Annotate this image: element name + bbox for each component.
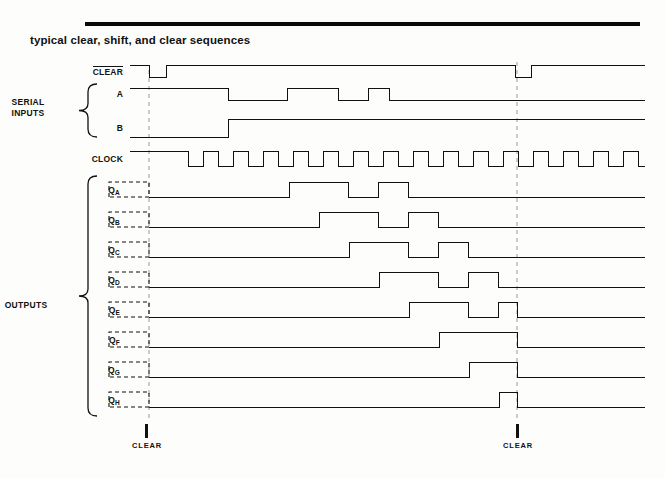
output-qd-waveform xyxy=(109,272,645,287)
clear-input-waveform xyxy=(130,65,645,77)
serial-a-trace xyxy=(130,88,645,100)
clear-marker-1-tick xyxy=(145,424,148,438)
output-qh-waveform xyxy=(109,392,645,407)
output-qb-trace xyxy=(149,212,645,227)
clear-marker-1-label: CLEAR xyxy=(132,441,162,450)
serial-b-label: B xyxy=(53,123,123,133)
datasheet-figure: typical clear, shift, and clear sequence… xyxy=(0,0,665,478)
clock-trace xyxy=(130,151,645,166)
output-qh-trace xyxy=(149,392,645,407)
output-qe-trace xyxy=(149,302,645,317)
output-qc-label: QC xyxy=(50,245,120,255)
output-qf-label: QF xyxy=(50,335,120,345)
output-qg-trace xyxy=(149,362,645,377)
output-qc-waveform xyxy=(109,242,645,257)
output-qe-waveform xyxy=(109,302,645,317)
output-qd-label: QD xyxy=(50,275,120,285)
clear-input-label: CLEAR xyxy=(53,66,123,77)
serial-inputs-group-label: SERIALINPUTS xyxy=(0,97,68,119)
output-qc-trace xyxy=(149,242,645,257)
output-qa-waveform xyxy=(109,182,645,197)
clear-input-trace xyxy=(130,65,645,77)
outputs-group-label: OUTPUTS xyxy=(0,300,66,311)
output-qb-waveform xyxy=(109,212,645,227)
output-qf-waveform xyxy=(109,332,645,347)
output-qh-label: QH xyxy=(50,395,120,405)
clear-marker-2-label: CLEAR xyxy=(503,441,533,450)
output-qa-label: QA xyxy=(50,185,120,195)
serial-b-waveform xyxy=(130,119,645,137)
clock-label: CLOCK xyxy=(53,154,123,164)
outputs-brace xyxy=(79,176,97,416)
output-qb-label: QB xyxy=(50,215,120,225)
output-qd-trace xyxy=(149,272,645,287)
output-qg-waveform xyxy=(109,362,645,377)
clock-waveform xyxy=(130,151,645,166)
clear-marker-2-tick xyxy=(516,424,519,438)
output-qg-label: QG xyxy=(50,365,120,375)
serial-b-trace xyxy=(130,119,645,137)
serial-a-waveform xyxy=(130,88,645,100)
output-qf-trace xyxy=(149,332,645,347)
output-qa-trace xyxy=(149,182,645,197)
